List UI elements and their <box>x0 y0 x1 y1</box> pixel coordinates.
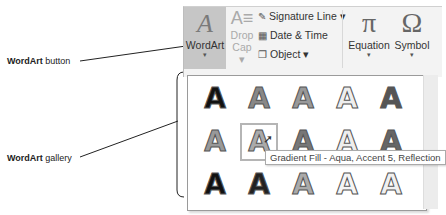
wordart-style-option[interactable]: A <box>372 80 410 118</box>
object-button[interactable]: ❐Object ▾ <box>258 48 309 60</box>
date-time-button[interactable]: ▦Date & Time <box>258 29 328 41</box>
wordart-gallery: AAAAAAAAAAAAAAA <box>187 75 427 211</box>
wordart-style-option[interactable]: A <box>196 80 234 118</box>
gallery-scrollbar[interactable] <box>423 75 438 209</box>
drop-cap-icon: A≡ <box>229 7 255 29</box>
calendar-icon: ▦ <box>258 30 267 41</box>
drop-cap-button[interactable]: A≡ Drop Cap ▾ <box>229 7 255 65</box>
wordart-style-option[interactable]: A <box>196 166 234 204</box>
chevron-down-icon: ▾ <box>184 51 226 59</box>
wordart-style-option[interactable]: A <box>328 166 366 204</box>
chevron-down-icon: ▾ <box>346 51 392 59</box>
wordart-style-option[interactable]: A <box>240 166 278 204</box>
mouse-cursor-icon: ➚ <box>263 132 273 146</box>
object-icon: ❐ <box>258 49 267 60</box>
wordart-style-option[interactable]: A <box>240 80 278 118</box>
symbol-button[interactable]: Ω Symbol ▾ <box>392 7 432 59</box>
wordart-style-option[interactable]: A <box>284 80 322 118</box>
chevron-down-icon: ▾ <box>392 51 432 59</box>
omega-icon: Ω <box>392 7 432 39</box>
pi-icon: π <box>346 7 392 39</box>
tooltip: Gradient Fill - Aqua, Accent 5, Reflecti… <box>265 150 446 165</box>
ribbon-separator <box>342 10 343 68</box>
wordart-style-option[interactable]: A <box>372 166 410 204</box>
signature-icon: ✎ <box>258 11 266 22</box>
wordart-style-option[interactable]: A <box>284 166 322 204</box>
wordart-style-option[interactable]: A <box>196 123 234 161</box>
equation-button[interactable]: π Equation ▾ <box>346 7 392 59</box>
wordart-style-option[interactable]: A <box>328 80 366 118</box>
signature-line-button[interactable]: ✎Signature Line ▾ <box>258 10 346 22</box>
wordart-icon: A <box>184 9 226 39</box>
wordart-button[interactable]: A WordArt ▾ <box>184 7 226 69</box>
